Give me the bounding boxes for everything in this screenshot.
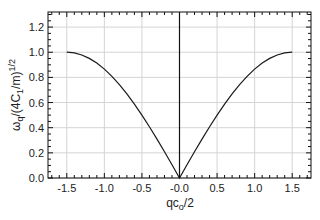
y-tick-label: 1.2 [29,21,44,33]
x-tick-label: -1.0 [95,182,114,194]
y-tick-label: 0.6 [29,97,44,109]
x-tick-label: -1.5 [57,182,76,194]
x-axis-label: qco/2 [166,196,194,212]
x-tick-label: 1.0 [247,182,262,194]
y-tick-label: 0.8 [29,71,44,83]
x-tick-labels: -1.5-1.0-0.5-0.00.51.01.5 [57,182,300,194]
x-tick-label: -0.5 [132,182,151,194]
y-tick-label: 0.0 [29,172,44,184]
x-tick-label: -0.0 [170,182,189,194]
y-tick-label: 0.2 [29,147,44,159]
x-tick-label: 0.5 [209,182,224,194]
y-tick-label: 1.0 [29,46,44,58]
x-tick-label: 1.5 [285,182,300,194]
dispersion-chart: -1.5-1.0-0.5-0.00.51.01.5 0.00.20.40.60.… [0,0,320,220]
y-tick-label: 0.4 [29,122,44,134]
y-tick-labels: 0.00.20.40.60.81.01.2 [29,21,44,184]
y-axis-label: ωq/(4C1/m)1/2 [7,59,25,131]
